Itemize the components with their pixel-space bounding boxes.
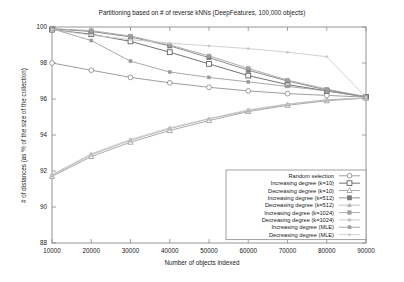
data-point — [246, 67, 250, 71]
data-point — [247, 108, 250, 111]
series-line — [52, 98, 366, 175]
data-point — [90, 39, 93, 42]
legend-box: Random selectionIncreasing degree (k=10)… — [226, 170, 366, 240]
data-point — [129, 60, 132, 63]
series-decreasing-degree-k-512 — [50, 96, 368, 177]
data-point — [167, 50, 172, 55]
y-tick-label: 90 — [40, 203, 48, 210]
data-point — [246, 89, 251, 94]
x-tick-label: 50000 — [200, 247, 218, 254]
legend-label: Increasing degree (k=10) — [271, 180, 334, 186]
chart-title: Partitioning based on # of reverse kNNs … — [0, 9, 404, 16]
y-tick-label: 100 — [36, 23, 47, 30]
data-point — [50, 61, 55, 66]
data-point — [207, 54, 211, 58]
data-point — [90, 152, 93, 155]
legend-label: Decreasing degree (k=512) — [265, 202, 334, 208]
data-point — [89, 29, 93, 33]
y-tick-label: 98 — [40, 59, 48, 66]
data-point — [285, 91, 290, 96]
x-tick-label: 20000 — [82, 247, 100, 254]
data-point — [247, 47, 249, 49]
plot-canvas: 8890929496981001000020000300004000050000… — [0, 0, 404, 282]
legend-label: Random selection — [288, 173, 334, 179]
data-point — [286, 78, 290, 82]
data-point — [208, 45, 210, 47]
legend-label: Decreasing degree (k=1024) — [262, 217, 334, 223]
x-tick-label: 30000 — [122, 247, 140, 254]
data-point — [168, 71, 171, 74]
data-point — [128, 75, 133, 80]
data-point — [207, 62, 212, 67]
legend-marker — [348, 211, 352, 215]
data-point — [129, 138, 132, 141]
data-point — [51, 173, 54, 176]
chart-figure: Partitioning based on # of reverse kNNs … — [0, 0, 404, 282]
data-point — [90, 34, 92, 36]
data-point — [169, 42, 171, 44]
legend-label: Decreasing degree (MLE) — [269, 232, 334, 238]
y-tick-label: 94 — [40, 131, 48, 138]
data-point — [286, 103, 289, 106]
x-tick-label: 60000 — [239, 247, 257, 254]
data-point — [208, 117, 211, 120]
x-axis-label: Number of objects indexed — [0, 259, 404, 266]
legend-marker — [347, 173, 352, 178]
data-point — [129, 38, 131, 40]
data-point — [365, 96, 367, 98]
series-decreasing-degree-k-1024 — [51, 97, 368, 177]
data-point — [325, 89, 328, 92]
data-point — [325, 98, 328, 101]
x-tick-label: 40000 — [161, 247, 179, 254]
x-tick-label: 80000 — [318, 247, 336, 254]
legend-marker — [348, 233, 350, 235]
data-point — [168, 126, 171, 129]
data-point — [51, 29, 53, 31]
series-line — [52, 98, 366, 176]
series-decreasing-degree-k-10 — [49, 95, 368, 178]
series-group — [49, 27, 368, 179]
series-line — [52, 98, 366, 175]
y-axis-label: # of distances (as % of the size of the … — [20, 51, 27, 221]
data-point — [286, 85, 289, 88]
x-tick-label: 70000 — [279, 247, 297, 254]
legend-item[interactable]: Random selection — [288, 173, 360, 179]
legend-label: Increasing degree (k=1024) — [264, 210, 334, 216]
data-point — [129, 34, 133, 38]
legend-marker — [347, 181, 352, 186]
y-tick-label: 96 — [40, 95, 48, 102]
y-tick-label: 88 — [40, 239, 48, 246]
data-point — [247, 80, 250, 83]
legend-label: Decreasing degree (k=10) — [268, 188, 334, 194]
x-tick-label: 90000 — [357, 247, 375, 254]
series-line — [52, 63, 366, 97]
legend-marker — [348, 226, 351, 229]
data-point — [207, 85, 212, 90]
data-point — [167, 80, 172, 85]
legend-label: Increasing degree (k=512) — [267, 195, 334, 201]
x-tick-label: 10000 — [43, 247, 61, 254]
data-point — [246, 73, 251, 78]
y-tick-label: 92 — [40, 167, 48, 174]
legend-label: Increasing degree (MLE) — [271, 224, 334, 230]
data-point — [208, 76, 211, 79]
data-point — [286, 51, 288, 53]
legend-marker — [348, 218, 351, 221]
legend-marker — [347, 196, 351, 200]
data-point — [326, 56, 328, 58]
data-point — [89, 68, 94, 73]
